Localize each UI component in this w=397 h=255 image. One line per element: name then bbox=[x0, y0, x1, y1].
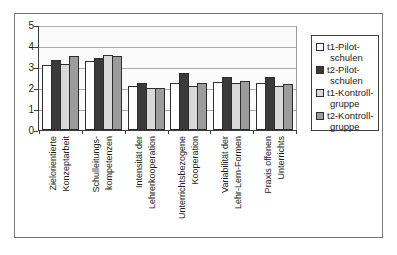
x-category-label-line: Unterrichtsbezogene bbox=[176, 136, 189, 231]
plot-area bbox=[38, 26, 297, 131]
x-category-label: Intensität derLehrerkooperation bbox=[133, 136, 159, 231]
legend-label-line: t1-Kontroll- bbox=[327, 87, 373, 98]
x-axis-tick-mark bbox=[296, 130, 297, 134]
legend-swatch-t2-Pilot-schulen bbox=[316, 66, 324, 74]
bar-group bbox=[82, 26, 125, 130]
legend-swatch-t2-Kontroll-gruppe bbox=[316, 112, 324, 120]
x-category-label-line: Unterrichts bbox=[275, 136, 288, 231]
legend-item: t2-Kontroll-gruppe bbox=[316, 110, 378, 132]
bar-t2-Kontroll-gruppe bbox=[69, 56, 79, 130]
x-axis-tick-mark bbox=[253, 130, 254, 134]
legend-swatch-t1-Pilot-schulen bbox=[316, 43, 324, 51]
chart-frame: 012345 ZielorientierteKonzeptarbeitSchul… bbox=[14, 13, 383, 238]
x-category-label-line: Kooperation bbox=[189, 136, 202, 231]
y-tick-mark bbox=[34, 131, 38, 132]
bar-t2-Kontroll-gruppe bbox=[155, 88, 165, 130]
bar-group bbox=[167, 26, 210, 130]
legend-label: t2-Pilot-schulen bbox=[327, 64, 363, 86]
x-axis-tick-mark bbox=[125, 130, 126, 134]
legend-label-line: schulen bbox=[327, 75, 363, 86]
y-tick-label: 0 bbox=[15, 125, 34, 137]
x-category-label-line: Variabilität der bbox=[219, 136, 232, 231]
legend-swatch-t1-Kontroll-gruppe bbox=[316, 89, 324, 97]
x-category-label-line: Intensität der bbox=[133, 136, 146, 231]
legend-item: t1-Kontroll-gruppe bbox=[316, 87, 378, 109]
bar-group bbox=[253, 26, 296, 130]
bar-groups bbox=[39, 26, 296, 130]
legend-label-line: t2-Pilot- bbox=[327, 64, 363, 75]
x-category-label: Variabilität derLehr-Lern-Formen bbox=[219, 136, 245, 231]
x-category-label: Schulleitungs-kompetenzen bbox=[90, 136, 116, 231]
legend-label-line: t1-Pilot- bbox=[327, 41, 363, 52]
bar-t2-Kontroll-gruppe bbox=[112, 56, 122, 130]
x-category-label-line: Konzeptarbeit bbox=[60, 136, 73, 231]
bar-t2-Kontroll-gruppe bbox=[197, 83, 207, 130]
x-axis-tick-mark bbox=[82, 130, 83, 134]
legend-item: t1-Pilot-schulen bbox=[316, 41, 378, 63]
legend-label-line: gruppe bbox=[327, 98, 373, 109]
x-axis-tick-mark bbox=[39, 130, 40, 134]
legend-label-line: schulen bbox=[327, 52, 363, 63]
legend-label: t1-Pilot-schulen bbox=[327, 41, 363, 63]
y-tick-mark bbox=[34, 110, 38, 111]
bar-group bbox=[210, 26, 253, 130]
y-tick-mark bbox=[34, 26, 38, 27]
legend-item: t2-Pilot-schulen bbox=[316, 64, 378, 86]
x-axis-tick-mark bbox=[210, 130, 211, 134]
bar-t2-Kontroll-gruppe bbox=[240, 81, 250, 130]
bar-group bbox=[39, 26, 82, 130]
x-category-label-line: Zielorientierte bbox=[47, 136, 60, 231]
x-category-label-line: Schulleitungs- bbox=[90, 136, 103, 231]
x-axis-tick-mark bbox=[168, 130, 169, 134]
x-category-label-line: kompetenzen bbox=[103, 136, 116, 231]
bar-t2-Kontroll-gruppe bbox=[283, 84, 293, 130]
y-tick-label: 5 bbox=[15, 20, 34, 32]
y-tick-mark bbox=[34, 47, 38, 48]
x-category-label: ZielorientierteKonzeptarbeit bbox=[47, 136, 73, 231]
legend-label-line: t2-Kontroll- bbox=[327, 110, 373, 121]
x-category-label-line: Lehr-Lern-Formen bbox=[232, 136, 245, 231]
legend: t1-Pilot-schulent2-Pilot-schulent1-Kontr… bbox=[311, 35, 379, 131]
x-category-label: Praxis offenenUnterrichts bbox=[262, 136, 288, 231]
y-tick-label: 2 bbox=[15, 83, 34, 95]
y-tick-mark bbox=[34, 68, 38, 69]
x-category-label-line: Praxis offenen bbox=[262, 136, 275, 231]
y-tick-label: 1 bbox=[15, 104, 34, 116]
x-category-label-line: Lehrerkooperation bbox=[146, 136, 159, 231]
y-tick-label: 4 bbox=[15, 41, 34, 53]
y-tick-label: 3 bbox=[15, 62, 34, 74]
legend-label: t2-Kontroll-gruppe bbox=[327, 110, 373, 132]
legend-label: t1-Kontroll-gruppe bbox=[327, 87, 373, 109]
bar-group bbox=[125, 26, 168, 130]
legend-label-line: gruppe bbox=[327, 121, 373, 132]
y-tick-mark bbox=[34, 89, 38, 90]
x-category-label: UnterrichtsbezogeneKooperation bbox=[176, 136, 202, 231]
